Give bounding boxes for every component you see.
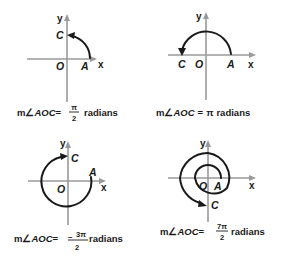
- x-axis-arrow-icon: [249, 52, 256, 58]
- point-o-label: O: [57, 183, 65, 195]
- point-c-label: C: [71, 152, 79, 164]
- caption-unit: radians: [216, 107, 250, 118]
- point-o-label: O: [195, 58, 203, 70]
- y-axis-arrow-icon: [205, 140, 211, 147]
- point-a-label: A: [226, 58, 235, 70]
- point-a-label: A: [88, 166, 97, 178]
- y-axis-label: y: [196, 11, 202, 22]
- caption-unit: radians: [231, 226, 265, 237]
- fraction-numerator: 7π: [217, 222, 227, 231]
- point-o-label: O: [199, 180, 207, 192]
- fraction-numerator: π: [71, 103, 77, 112]
- y-axis-label: y: [57, 13, 63, 24]
- svg-text:m∠AOC=: m∠AOC=: [17, 107, 62, 118]
- caption-prefix: m: [14, 233, 22, 244]
- spiral-arrowhead-icon: [198, 200, 207, 207]
- caption-unit: radians: [84, 107, 118, 118]
- arc-arrowhead-icon: [67, 32, 75, 39]
- caption-prefix: m: [17, 107, 25, 118]
- x-axis-label: x: [98, 59, 104, 70]
- caption-pi-over-2: m∠AOC= π 2 radians: [17, 103, 118, 123]
- angle-name: AOC: [33, 107, 55, 118]
- y-axis-label: y: [60, 138, 66, 149]
- svg-text:m∠AOC=: m∠AOC=: [14, 233, 59, 244]
- x-axis-label: x: [249, 180, 255, 191]
- caption-prefix: m: [160, 226, 168, 237]
- fraction-denominator: 2: [75, 243, 79, 252]
- point-o-label: O: [56, 60, 64, 72]
- y-axis-arrow-icon: [65, 141, 71, 148]
- panel-pi-over-2: y C O A x m∠AOC= π 2 radians: [17, 13, 118, 123]
- fraction-denominator: 2: [72, 114, 76, 123]
- y-axis-arrow-icon: [64, 14, 70, 21]
- y-axis-arrow-icon: [203, 12, 209, 19]
- equals-sign: =: [53, 233, 59, 244]
- point-c-label: C: [56, 29, 64, 41]
- angle-symbol-icon: ∠: [22, 233, 31, 244]
- x-axis-label: x: [248, 59, 254, 70]
- svg-text:m∠AOC=πradians: m∠AOC=πradians: [156, 107, 250, 118]
- x-axis-arrow-icon: [90, 56, 97, 62]
- fraction-numerator: 3π: [76, 230, 86, 239]
- caption-unit: radians: [89, 233, 123, 244]
- angle-symbol-icon: ∠: [164, 107, 173, 118]
- svg-text:m∠AOC=: m∠AOC=: [160, 226, 205, 237]
- point-a-label: A: [80, 60, 89, 72]
- arc-arrowhead-icon: [60, 153, 68, 160]
- fraction-denominator: 2: [220, 233, 224, 242]
- y-axis-label: y: [200, 138, 206, 149]
- angle-symbol-icon: ∠: [25, 107, 34, 118]
- caption-negative-3pi-over-2: m∠AOC= − 3π 2 radians: [14, 230, 123, 252]
- equals-sign: =: [56, 107, 62, 118]
- angle-symbol-icon: ∠: [168, 226, 177, 237]
- fraction-sign: −: [68, 233, 73, 242]
- caption-prefix: m: [156, 107, 164, 118]
- panel-negative-3pi-over-2: y C O A x m∠AOC= − 3π 2 radians: [14, 138, 123, 252]
- equals-sign: =: [199, 226, 205, 237]
- point-a-label: A: [213, 180, 222, 192]
- panel-7pi-over-2: y O A C x m∠AOC= 7π 2 radians: [160, 138, 265, 242]
- rotation-arc: [72, 36, 90, 58]
- point-c-label: C: [178, 58, 186, 70]
- x-axis-label: x: [101, 182, 107, 193]
- equals-sign: =: [198, 107, 204, 118]
- angle-value: π: [206, 107, 214, 118]
- caption-7pi-over-2: m∠AOC= 7π 2 radians: [160, 222, 265, 242]
- point-c-label: C: [211, 199, 219, 211]
- caption-pi: m∠AOC=πradians: [156, 107, 250, 118]
- angle-name: AOC: [30, 233, 52, 244]
- angle-name: AOC: [176, 226, 198, 237]
- panel-pi: y C O A x m∠AOC=πradians: [156, 11, 256, 118]
- angle-name: AOC: [172, 107, 194, 118]
- radian-angles-figure: y C O A x m∠AOC= π 2 radians y C O A x m…: [0, 0, 291, 260]
